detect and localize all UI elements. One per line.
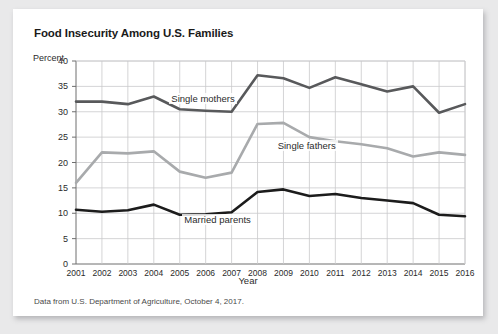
figure-card: Food Insecurity Among U.S. Families Perc… <box>13 9 483 316</box>
line-chart: 0510152025303540200120022003200420052006… <box>13 9 483 316</box>
y-axis-tick-label: 25 <box>46 132 68 142</box>
y-axis-tick-label: 15 <box>46 183 68 193</box>
y-axis-tick-label: 30 <box>46 107 68 117</box>
series-line <box>76 75 465 113</box>
series-inline-label: Single mothers <box>169 93 236 104</box>
y-axis-tick-label: 40 <box>46 56 68 66</box>
source-note: Data from U.S. Department of Agriculture… <box>34 297 244 306</box>
series-line <box>76 189 465 216</box>
series-line <box>76 123 465 183</box>
y-axis-tick-label: 10 <box>46 208 68 218</box>
y-axis-tick-label: 20 <box>46 158 68 168</box>
series-inline-label: Married parents <box>182 214 253 225</box>
y-axis-tick-label: 35 <box>46 81 68 91</box>
y-axis-tick-label: 5 <box>46 234 68 244</box>
x-axis-title: Year <box>13 275 483 286</box>
series-inline-label: Single fathers <box>276 140 338 151</box>
